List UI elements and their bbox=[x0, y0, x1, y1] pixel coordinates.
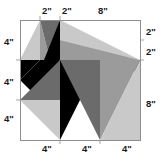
dimension-label-bottom-0: 4" bbox=[42, 143, 52, 154]
figure-container: 2"2"8"2"2"8"4"4"4"4"4"4" bbox=[0, 0, 166, 157]
dimension-label-right-1: 2" bbox=[146, 46, 156, 57]
lower-left-light-triangle bbox=[20, 100, 60, 140]
dimension-label-bottom-2: 4" bbox=[122, 143, 132, 154]
shapes-layer bbox=[20, 20, 140, 140]
dimension-diagram: 2"2"8"2"2"8"4"4"4"4"4"4" bbox=[0, 0, 166, 157]
dimension-label-top-0: 2" bbox=[42, 5, 52, 16]
dimension-label-top-1: 2" bbox=[62, 5, 72, 16]
dimension-label-right-0: 2" bbox=[146, 26, 156, 37]
dimension-label-top-2: 8" bbox=[98, 5, 108, 16]
dimension-label-left-0: 4" bbox=[4, 36, 14, 47]
dimension-label-left-2: 4" bbox=[4, 113, 14, 124]
dimension-label-left-1: 4" bbox=[4, 76, 14, 87]
top-left-light-wedge bbox=[20, 20, 40, 60]
dimension-label-bottom-1: 4" bbox=[82, 143, 92, 154]
dimension-label-right-2: 8" bbox=[146, 98, 156, 109]
